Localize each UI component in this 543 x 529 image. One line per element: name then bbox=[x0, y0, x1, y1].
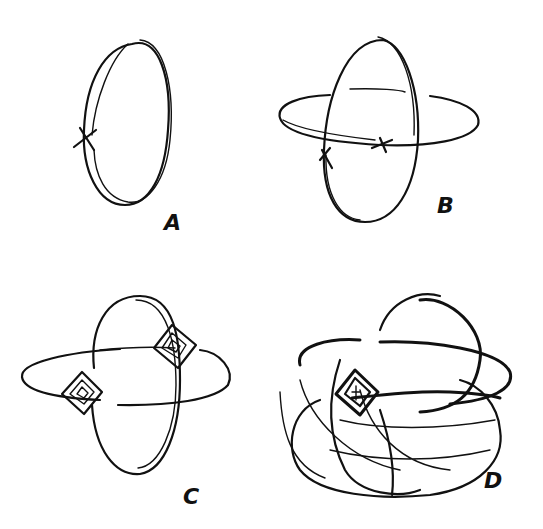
sketch-canvas bbox=[0, 0, 543, 529]
panel-c-drawing bbox=[22, 296, 230, 474]
panel-label-a: A bbox=[164, 212, 181, 234]
panel-label-d: D bbox=[484, 470, 502, 492]
panel-label-c: C bbox=[183, 486, 199, 508]
panel-label-b: B bbox=[437, 195, 454, 217]
panel-a-drawing bbox=[74, 40, 171, 205]
panel-d-drawing bbox=[280, 294, 511, 496]
